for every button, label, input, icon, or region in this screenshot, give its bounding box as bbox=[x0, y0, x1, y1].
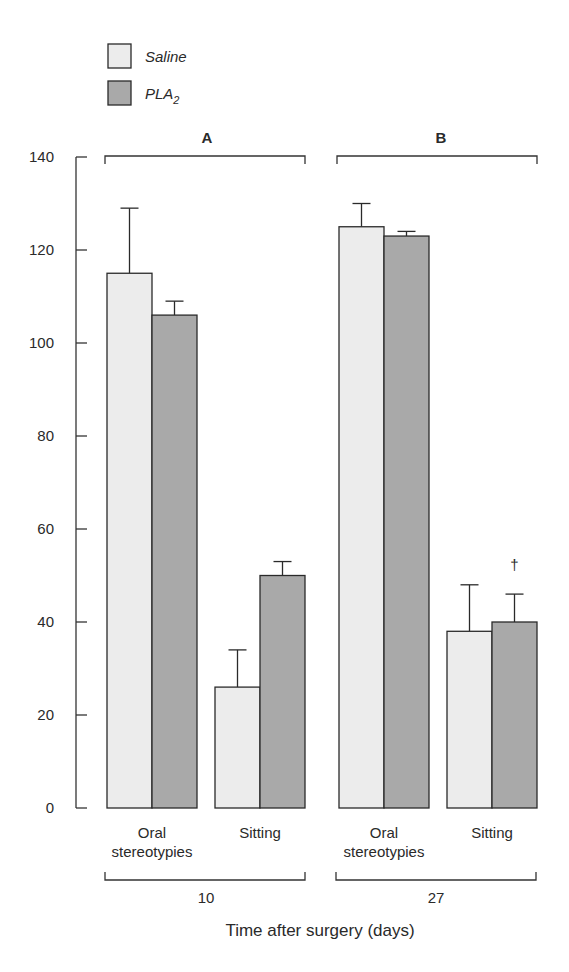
y-tick-label: 60 bbox=[37, 520, 54, 537]
category-label: Oral bbox=[370, 824, 398, 841]
bar-saline-a-sitting bbox=[215, 687, 260, 808]
time-bracket-10: 10 bbox=[105, 872, 305, 906]
category-label: Oral bbox=[138, 824, 166, 841]
legend: Saline PLA2 bbox=[108, 44, 187, 106]
category-label: Sitting bbox=[239, 824, 281, 841]
bars: † bbox=[107, 204, 537, 809]
y-tick-label: 40 bbox=[37, 613, 54, 630]
legend-label-saline: Saline bbox=[145, 48, 187, 65]
panel-label-b: B bbox=[436, 129, 447, 146]
category-label: stereotypies bbox=[112, 843, 193, 860]
panel-a-bracket: A bbox=[105, 129, 305, 164]
time-label-27: 27 bbox=[428, 889, 445, 906]
bar-pla2-b-oral bbox=[384, 236, 429, 808]
bar-saline-b-sitting bbox=[447, 631, 492, 808]
panel-label-a: A bbox=[202, 129, 213, 146]
y-tick-label: 100 bbox=[29, 334, 54, 351]
bar-pla2-a-oral bbox=[152, 315, 197, 808]
y-tick-label: 80 bbox=[37, 427, 54, 444]
x-axis-title: Time after surgery (days) bbox=[225, 921, 414, 940]
legend-swatch-pla2 bbox=[108, 81, 131, 105]
y-tick-label: 0 bbox=[46, 799, 54, 816]
y-tick-label: 140 bbox=[29, 148, 54, 165]
category-label: Sitting bbox=[471, 824, 513, 841]
time-bracket-27: 27 bbox=[336, 872, 536, 906]
bar-pla2-b-sitting bbox=[492, 622, 537, 808]
bar-pla2-a-sitting bbox=[260, 576, 305, 809]
y-tick-label: 20 bbox=[37, 706, 54, 723]
bar-saline-b-oral bbox=[339, 227, 384, 808]
legend-label-pla2: PLA2 bbox=[145, 85, 179, 106]
y-tick-label: 120 bbox=[29, 241, 54, 258]
bar-saline-a-oral bbox=[107, 273, 152, 808]
legend-swatch-saline bbox=[108, 44, 131, 68]
category-label: stereotypies bbox=[344, 843, 425, 860]
bar-chart: Saline PLA2 A B 020406080100120140 † Ora… bbox=[0, 0, 569, 972]
panel-b-bracket: B bbox=[337, 129, 537, 164]
time-label-10: 10 bbox=[198, 889, 215, 906]
significance-dagger: † bbox=[510, 556, 518, 573]
y-axis: 020406080100120140 bbox=[29, 148, 87, 816]
category-labels: OralstereotypiesSittingOralstereotypiesS… bbox=[112, 824, 513, 860]
